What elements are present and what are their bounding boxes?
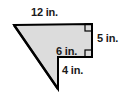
dimension-label-top: 12 in. <box>31 7 58 18</box>
composite-shape-fill <box>14 24 92 89</box>
dimension-label-right: 5 in. <box>97 33 118 44</box>
dimension-label-vertical: 4 in. <box>62 65 83 76</box>
dimension-label-notch: 6 in. <box>56 46 77 57</box>
geometry-figure: 12 in. 5 in. 6 in. 4 in. <box>0 0 130 106</box>
